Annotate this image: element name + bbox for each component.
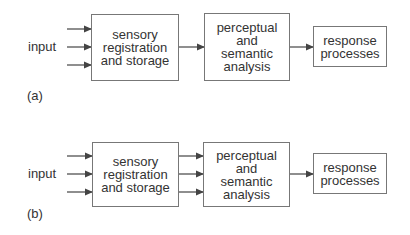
box-line: response [320,34,379,47]
box-line: and [216,162,277,175]
diagram-b-input-arrows [67,156,92,192]
diagram-a-input-label: input [28,39,56,54]
diagram-b-response-processes-box: response processes [313,153,387,194]
diagram-a-perceptual-analysis-box: perceptual and semantic analysis [204,13,290,81]
diagram-a-response-processes-box: response processes [313,26,387,67]
diagram-b-input-label: input [28,166,56,181]
diagram-a-input-arrows [67,29,91,65]
box-line: analysis [217,60,278,73]
box-line: analysis [216,188,277,201]
box-line: processes [320,47,379,60]
box-line: response [320,161,379,174]
diagram-b-perceptual-analysis-box: perceptual and semantic analysis [203,142,290,207]
box-line: processes [320,174,379,187]
box-line: semantic [216,175,277,188]
diagram-b-box1-to-box2-arrows [179,156,203,192]
box-line: perceptual [216,149,277,162]
diagram-a-caption: (a) [27,88,43,103]
box-line: and storage [101,181,170,194]
diagram-b-sensory-registration-box: sensory registration and storage [92,142,179,207]
box-line: and storage [101,54,170,67]
diagram-a-sensory-registration-box: sensory registration and storage [91,14,179,81]
diagram-b-caption: (b) [27,206,43,221]
